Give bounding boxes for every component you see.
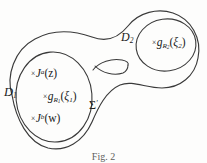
insertion-jb-argument: (w) [44,112,60,124]
insertion-gr1-paren-close: ) [73,90,77,102]
insertion-g-r1-xi1: ×gR1(ξ1) [43,91,77,104]
region-d1-base: D [4,85,13,99]
insertion-gr2-paren-close: ) [182,36,186,48]
sigma-prime-mark: ′ [96,99,98,108]
region-d1-subscript: 1 [13,91,17,100]
region-label-d2: D2 [121,31,133,45]
figure-caption: Fig. 2 [0,151,207,162]
insertion-g-r2-xi2: ×gR2(ξ2) [152,37,186,50]
riemann-surface-drawing [0,0,207,163]
region-label-d1: D1 [4,86,17,100]
insertion-j-a-z: ×Ja(z) [31,68,57,80]
insertion-j-b-w: ×Jb(w) [31,113,60,125]
region-d2-subscript: 2 [130,36,134,45]
figure-container: D1 D2 Σ′ ×Ja(z) ×gR1(ξ1) ×Jb(w) ×gR2(ξ2)… [0,0,207,163]
insertion-ja-argument: (z) [44,67,57,79]
sigma-symbol: Σ [89,98,96,112]
surface-label-sigma-prime: Σ′ [89,99,98,111]
handle-lower-arc [95,65,128,74]
region-d2-base: D [121,30,130,44]
surface-outline [10,11,199,149]
